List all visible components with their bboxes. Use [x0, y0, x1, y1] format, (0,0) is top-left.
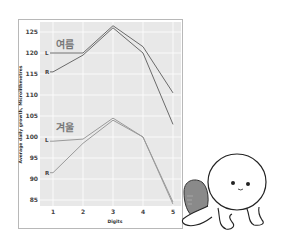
- mascot-character-icon: [0, 0, 282, 250]
